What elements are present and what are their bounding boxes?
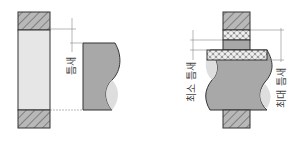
hole-top-section-right (223, 12, 250, 30)
gap-diagram: 틈새 최소 틈새 최대 틈새 (0, 0, 305, 142)
hole-body (18, 30, 50, 110)
max-gap-label: 최대 틈새 (276, 68, 287, 107)
left-panel: 틈새 (18, 12, 120, 128)
min-gap-label: 최소 틈새 (186, 62, 197, 101)
gap-label: 틈새 (66, 57, 77, 75)
shaft-crosshatch-band (207, 50, 267, 60)
hole-bottom-section-right (223, 110, 250, 128)
hole-top-section (18, 12, 50, 30)
hole-bottom-section (18, 110, 50, 128)
hole-crosshatch-right (223, 30, 250, 40)
right-panel: 최소 틈새 최대 틈새 (186, 12, 287, 128)
hole-gap-right (223, 40, 250, 50)
